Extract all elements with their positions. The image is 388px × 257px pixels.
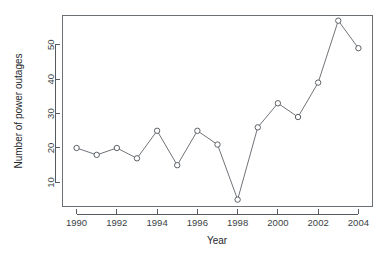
data-point-1990 bbox=[74, 145, 79, 150]
x-axis: 19901992199419961998200020022004 bbox=[66, 209, 369, 228]
data-point-1994 bbox=[154, 128, 159, 133]
x-tick-label-1990: 1990 bbox=[66, 217, 87, 228]
y-tick-label-30: 30 bbox=[45, 108, 56, 119]
y-tick-label-20: 20 bbox=[45, 143, 56, 154]
x-tick-label-1992: 1992 bbox=[106, 217, 127, 228]
data-point-2004 bbox=[356, 45, 361, 50]
data-point-1999 bbox=[255, 125, 260, 130]
data-point-1991 bbox=[94, 152, 99, 157]
data-point-1995 bbox=[175, 163, 180, 168]
data-point-2001 bbox=[295, 114, 300, 119]
x-tick-label-2002: 2002 bbox=[308, 217, 329, 228]
x-axis-title: Year bbox=[207, 235, 228, 246]
x-tick-label-2004: 2004 bbox=[348, 217, 369, 228]
data-point-2000 bbox=[275, 101, 280, 106]
data-point-1992 bbox=[114, 145, 119, 150]
chart-page: 1020304050 19901992199419961998200020022… bbox=[0, 0, 388, 257]
data-point-1998 bbox=[235, 197, 240, 202]
plot-area-frame bbox=[63, 16, 373, 207]
data-point-1993 bbox=[134, 156, 139, 161]
y-tick-label-50: 50 bbox=[45, 39, 56, 50]
y-tick-label-10: 10 bbox=[45, 177, 56, 188]
data-point-2003 bbox=[336, 18, 341, 23]
series-line-power-outages bbox=[77, 21, 359, 200]
x-tick-label-1998: 1998 bbox=[227, 217, 248, 228]
x-tick-label-1996: 1996 bbox=[187, 217, 208, 228]
data-point-markers bbox=[74, 18, 361, 202]
y-axis-title: Number of power outages bbox=[13, 53, 24, 168]
y-tick-label-40: 40 bbox=[45, 74, 56, 85]
y-axis: 1020304050 bbox=[45, 39, 60, 187]
data-point-2002 bbox=[315, 80, 320, 85]
x-tick-label-2000: 2000 bbox=[267, 217, 288, 228]
power-outages-line-chart: 1020304050 19901992199419961998200020022… bbox=[0, 0, 388, 257]
data-point-1996 bbox=[195, 128, 200, 133]
data-point-1997 bbox=[215, 142, 220, 147]
x-tick-label-1994: 1994 bbox=[147, 217, 168, 228]
